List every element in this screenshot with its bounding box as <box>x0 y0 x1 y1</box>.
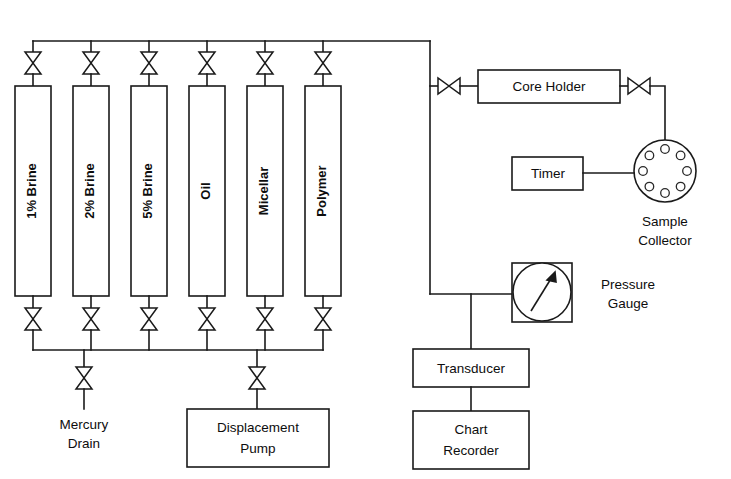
displacement-pump-box[interactable]: Displacement Pump <box>187 409 329 467</box>
collector-port-6 <box>645 182 654 191</box>
schematic-diagram: 1% Brine 2% Brine 5% Brine Oil Micellar … <box>0 0 731 479</box>
vessel-1-brine-label: 1% Brine <box>24 163 39 219</box>
valve-top-3[interactable] <box>141 52 157 86</box>
sample-collector-label-line1: Sample <box>642 214 688 229</box>
valve-top-6[interactable] <box>315 52 331 86</box>
valve-bottom-1[interactable] <box>25 296 41 350</box>
vessel-1-brine[interactable]: 1% Brine <box>15 86 51 296</box>
pressure-gauge[interactable]: Pressure Gauge <box>512 263 655 322</box>
top-valve-row[interactable] <box>25 52 331 86</box>
valve-displacement-pump-lower[interactable] <box>249 378 265 389</box>
valve-displacement-pump-upper[interactable] <box>249 367 265 378</box>
vessel-micellar[interactable]: Micellar <box>247 86 283 296</box>
vessel-2-brine[interactable]: 2% Brine <box>73 86 109 296</box>
vessel-oil[interactable]: Oil <box>189 86 225 296</box>
chart-recorder-label-line2: Recorder <box>443 443 499 458</box>
valve-top-2[interactable] <box>83 52 99 86</box>
top-manifold <box>33 41 430 52</box>
vessel-oil-label: Oil <box>198 182 213 199</box>
collector-port-1 <box>661 145 670 154</box>
collector-port-7 <box>639 167 648 176</box>
vessel-5-brine-label: 5% Brine <box>140 163 155 219</box>
displacement-pump-branch[interactable] <box>249 350 265 409</box>
mercury-drain-label-line2: Drain <box>68 436 100 451</box>
timer-label: Timer <box>531 166 565 181</box>
sample-collector-label-line2: Collector <box>638 233 692 248</box>
bottom-valve-row[interactable] <box>25 296 331 350</box>
displacement-pump-label-line2: Pump <box>240 441 275 456</box>
transducer-box[interactable]: Transducer <box>413 349 529 387</box>
transducer-label: Transducer <box>437 361 505 376</box>
core-holder-box[interactable]: Core Holder <box>478 70 620 103</box>
vessel-polymer-label: Polymer <box>314 165 329 216</box>
valve-mercury-drain-upper[interactable] <box>76 367 92 378</box>
mercury-drain-branch[interactable]: Mercury Drain <box>60 350 109 451</box>
collector-port-2 <box>676 151 685 160</box>
valve-bottom-5[interactable] <box>257 296 273 350</box>
pressure-gauge-label-line1: Pressure <box>601 277 655 292</box>
mercury-drain-label-line1: Mercury <box>60 417 109 432</box>
valve-top-5[interactable] <box>257 52 273 86</box>
timer-box[interactable]: Timer <box>512 157 634 190</box>
valve-top-1[interactable] <box>25 52 41 86</box>
valve-mercury-drain-lower[interactable] <box>76 378 92 389</box>
displacement-pump-label-line1: Displacement <box>217 420 299 435</box>
valve-bottom-6[interactable] <box>315 296 331 350</box>
sample-collector[interactable]: Sample Collector <box>634 140 696 248</box>
valve-core-inlet[interactable] <box>438 78 478 94</box>
chart-recorder-label-line1: Chart <box>454 422 487 437</box>
vessel-2-brine-label: 2% Brine <box>82 163 97 219</box>
valve-bottom-3[interactable] <box>141 296 157 350</box>
collector-port-5 <box>661 189 670 198</box>
valve-bottom-4[interactable] <box>199 296 215 350</box>
vessel-5-brine[interactable]: 5% Brine <box>131 86 167 296</box>
pressure-gauge-label-line2: Gauge <box>608 296 649 311</box>
collector-port-4 <box>676 182 685 191</box>
valve-top-4[interactable] <box>199 52 215 86</box>
collector-port-3 <box>683 167 692 176</box>
vessel-polymer[interactable]: Polymer <box>305 86 341 296</box>
vessel-column-group: 1% Brine 2% Brine 5% Brine Oil Micellar … <box>15 86 341 296</box>
chart-recorder-box[interactable]: Chart Recorder <box>413 411 529 469</box>
collector-port-8 <box>645 151 654 160</box>
valve-bottom-2[interactable] <box>83 296 99 350</box>
core-holder-label: Core Holder <box>513 79 586 94</box>
schematic-canvas: 1% Brine 2% Brine 5% Brine Oil Micellar … <box>0 0 731 479</box>
valve-core-outlet[interactable] <box>620 78 665 140</box>
vessel-micellar-label: Micellar <box>256 167 271 215</box>
